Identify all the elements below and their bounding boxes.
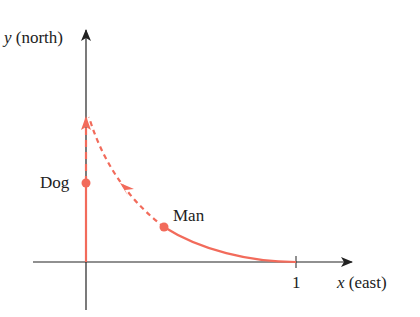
dog-point [82, 179, 91, 188]
x-axis-var: x [337, 273, 345, 292]
man-point [160, 223, 169, 232]
y-axis-var: y [4, 28, 12, 47]
x-axis-label: x (east) [337, 274, 387, 291]
y-axis-label: y (north) [4, 29, 63, 46]
dog-label: Dog [40, 174, 69, 191]
x-axis-dir: (east) [349, 273, 387, 292]
man-path-solid [164, 227, 296, 262]
man-direction-arrow-icon [120, 183, 134, 196]
man-path-dashed [89, 117, 164, 227]
x-tick-label: 1 [292, 274, 301, 291]
man-label: Man [173, 207, 204, 224]
diagram-canvas [0, 0, 420, 317]
y-axis-dir: (north) [16, 28, 63, 47]
